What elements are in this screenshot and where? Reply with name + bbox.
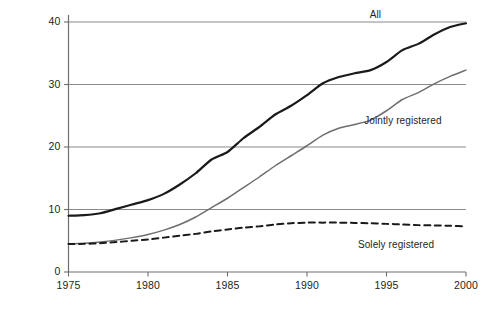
x-tick-label-1980: 1980 <box>123 279 173 291</box>
x-tick-label-1990: 1990 <box>282 279 332 291</box>
y-tick-label-0: 0 <box>28 265 61 277</box>
x-tick-label-2000: 2000 <box>441 279 482 291</box>
x-tick-label-1975: 1975 <box>44 279 94 291</box>
y-tick-label-40: 40 <box>28 15 61 27</box>
data-series-group <box>69 23 467 244</box>
x-tick-label-1995: 1995 <box>362 279 412 291</box>
y-tick-label-30: 30 <box>28 78 61 90</box>
chart-plot-area <box>0 0 482 310</box>
y-tick-label-20: 20 <box>28 140 61 152</box>
y-tick-label-10: 10 <box>28 203 61 215</box>
series-label-1: Jointly registered <box>364 115 441 126</box>
series-line-1 <box>69 70 467 244</box>
line-chart: 010203040 197519801985199019952000 AllJo… <box>0 0 482 310</box>
series-label-2: Solely registered <box>358 239 434 250</box>
gridlines <box>69 22 467 272</box>
series-label-0: All <box>370 9 381 20</box>
x-tick-label-1985: 1985 <box>203 279 253 291</box>
